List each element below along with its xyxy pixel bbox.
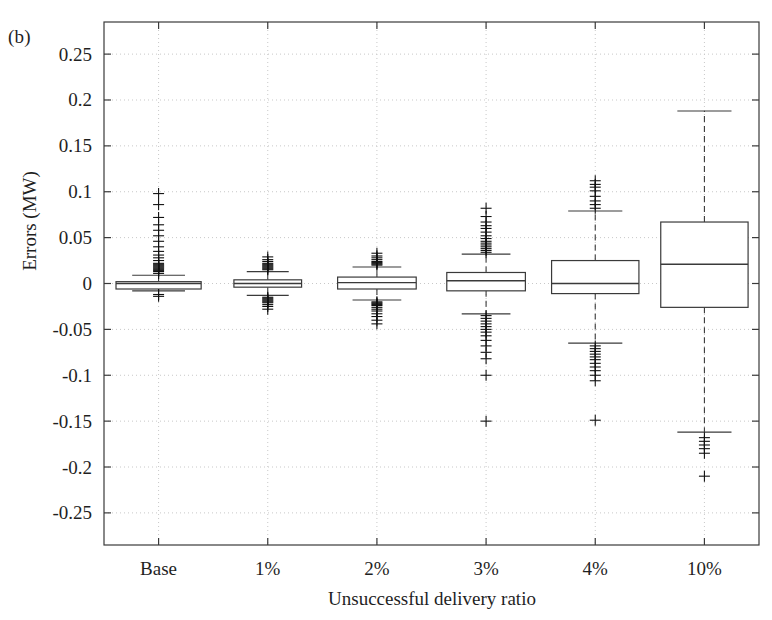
figure-container: (b) Errors (MW) Unsuccessful delivery ra… <box>0 0 772 620</box>
boxplot-group <box>552 175 639 425</box>
y-tick-label: -0.1 <box>62 365 92 386</box>
y-tick-label: -0.05 <box>52 319 92 340</box>
boxplot-group <box>338 248 417 330</box>
boxplot-svg: 0.250.20.150.10.050-0.05-0.1-0.15-0.2-0.… <box>0 0 772 620</box>
y-tick-label: -0.2 <box>62 457 92 478</box>
y-tick-label: 0.2 <box>68 89 92 110</box>
boxplot-group <box>234 251 302 314</box>
y-tick-label: -0.15 <box>52 411 92 432</box>
y-tick-label: 0.25 <box>59 44 92 65</box>
boxplot-group <box>447 203 526 427</box>
boxplot-group <box>116 188 201 302</box>
x-tick-label: 1% <box>255 558 281 579</box>
boxes-layer <box>116 111 748 482</box>
tick-labels-layer: 0.250.20.150.10.050-0.05-0.1-0.15-0.2-0.… <box>52 44 722 579</box>
box-iqr <box>447 272 526 290</box>
y-tick-label: 0.1 <box>68 181 92 202</box>
y-tick-label: -0.25 <box>52 502 92 523</box>
y-tick-label: 0.05 <box>59 227 92 248</box>
x-tick-label: 4% <box>583 558 609 579</box>
box-iqr <box>116 282 201 289</box>
x-tick-label: 2% <box>364 558 390 579</box>
y-tick-label: 0.15 <box>59 135 92 156</box>
x-tick-label: 3% <box>473 558 499 579</box>
box-iqr <box>552 261 639 294</box>
x-tick-label: Base <box>140 558 177 579</box>
x-tick-label: 10% <box>687 558 722 579</box>
y-tick-label: 0 <box>83 273 93 294</box>
